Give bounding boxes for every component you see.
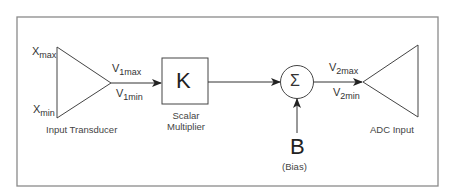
label-v2-min: V2min	[333, 87, 360, 101]
label-v1-min: V1min	[116, 88, 143, 102]
caption-scalar-line1: Scalar	[163, 111, 209, 121]
caption-input-transducer: Input Transducer	[46, 125, 117, 135]
caption-scalar-multiplier: Scalar Multiplier	[163, 111, 209, 131]
symbol-bias-b: B	[290, 136, 305, 158]
label-x-min: Xmin	[33, 104, 55, 118]
adc-input-triangle	[363, 45, 418, 117]
label-v2-max: V2max	[329, 62, 358, 76]
caption-bias: (Bias)	[282, 162, 307, 172]
caption-scalar-line2: Multiplier	[163, 122, 209, 132]
input-transducer-triangle	[57, 47, 111, 118]
label-v1-max: V1max	[112, 63, 141, 77]
symbol-k: K	[176, 70, 191, 92]
symbol-sigma: Σ	[290, 73, 300, 89]
diagram-frame	[17, 17, 438, 186]
label-x-max: Xmax	[32, 46, 56, 60]
caption-adc-input: ADC Input	[370, 125, 414, 135]
diagram-canvas	[0, 0, 456, 194]
